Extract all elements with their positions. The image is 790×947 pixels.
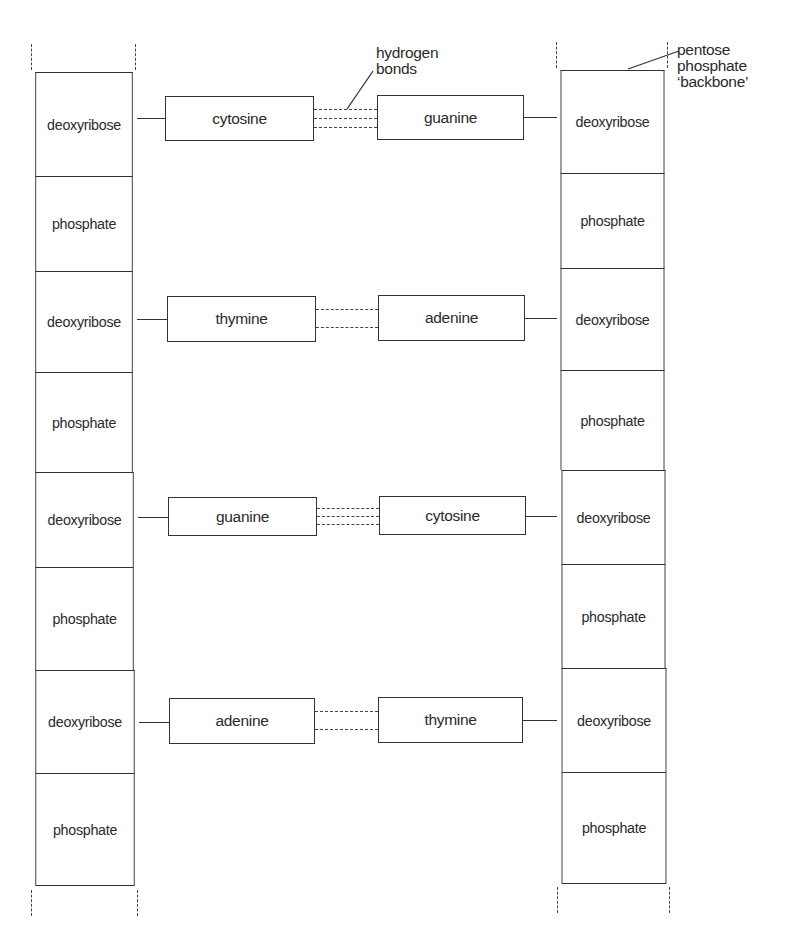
backbone-label-line1: pentose <box>677 42 730 58</box>
bond-left-4 <box>139 722 169 723</box>
hydrogen-bond-4a <box>315 711 378 712</box>
backbone-label-line3: ‘backbone’ <box>677 74 748 90</box>
right-deoxyribose-3: deoxyribose <box>562 470 666 564</box>
left-phosphate-3: phosphate <box>35 567 133 670</box>
left-strand-continuation-bottom-left <box>31 890 32 916</box>
hydrogen-bond-3b <box>317 516 379 517</box>
hydrogen-bond-2b <box>316 327 378 328</box>
bond-left-3 <box>138 517 168 518</box>
right-phosphate-4: phosphate <box>562 772 667 884</box>
left-strand-continuation-bottom-right <box>137 890 138 916</box>
hydrogen-bond-4b <box>315 729 378 730</box>
base-guanine-right: guanine <box>377 95 524 140</box>
bond-right-3 <box>526 516 557 517</box>
right-deoxyribose-4: deoxyribose <box>562 668 667 772</box>
bond-left-2 <box>137 319 167 320</box>
left-strand-continuation-top-left <box>31 44 32 70</box>
left-phosphate-1: phosphate <box>35 176 133 271</box>
base-cytosine-left: cytosine <box>165 96 314 141</box>
right-deoxyribose-2: deoxyribose <box>561 268 665 370</box>
base-thymine-left: thymine <box>167 296 316 342</box>
base-adenine-right: adenine <box>378 295 525 341</box>
base-guanine-left: guanine <box>168 497 317 536</box>
right-strand-continuation-bottom-left <box>557 887 558 913</box>
hydrogen-bond-3c <box>317 524 379 525</box>
bond-right-2 <box>525 318 557 319</box>
hydrogen-bond-1c <box>314 127 377 128</box>
hydrogen-bonds-label-line1: hydrogen <box>376 45 438 61</box>
right-phosphate-2: phosphate <box>561 370 665 470</box>
base-adenine-left: adenine <box>169 698 315 744</box>
left-deoxyribose-4: deoxyribose <box>35 670 134 773</box>
left-phosphate-2: phosphate <box>35 372 133 472</box>
left-deoxyribose-1: deoxyribose <box>35 72 133 176</box>
right-strand-continuation-bottom-right <box>669 887 670 913</box>
hydrogen-bonds-label-line2: bonds <box>376 61 417 77</box>
right-strand-continuation-top-left <box>556 42 557 68</box>
left-deoxyribose-3: deoxyribose <box>35 472 133 567</box>
base-cytosine-right: cytosine <box>379 496 526 535</box>
hydrogen-bonds-leader-line <box>340 65 380 115</box>
base-thymine-right: thymine <box>378 697 523 743</box>
bond-right-1 <box>524 117 557 118</box>
right-phosphate-3: phosphate <box>562 564 666 668</box>
left-phosphate-4: phosphate <box>35 773 134 886</box>
backbone-label-line2: phosphate <box>677 58 747 74</box>
backbone-leader-line <box>620 44 682 74</box>
left-deoxyribose-2: deoxyribose <box>35 271 133 372</box>
right-phosphate-1: phosphate <box>561 173 665 268</box>
hydrogen-bond-2a <box>316 309 378 310</box>
left-strand-continuation-top-right <box>135 44 136 70</box>
bond-left-1 <box>137 118 166 119</box>
hydrogen-bond-3a <box>317 508 379 509</box>
bond-right-4 <box>523 720 557 721</box>
right-deoxyribose-1: deoxyribose <box>561 70 665 173</box>
hydrogen-bond-1b <box>314 118 377 119</box>
